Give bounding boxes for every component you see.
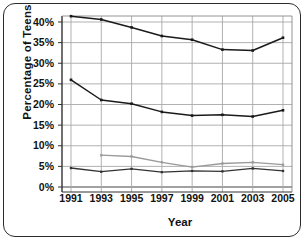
x-axis-tick-label: 1995 [115,192,149,204]
data-point-marker [70,167,72,169]
data-point-marker [221,162,223,164]
data-point-marker [130,102,133,105]
y-axis-tick-label: 5% [18,160,54,172]
x-axis-tick-label: 2005 [266,192,300,204]
series-line [71,80,283,117]
data-point-marker [252,161,254,163]
x-axis-tick-label: 1991 [54,192,88,204]
data-point-marker [100,99,103,102]
data-point-marker [100,171,102,173]
x-axis-tick-label: 1997 [145,192,179,204]
x-axis-tick-label: 2003 [236,192,270,204]
data-point-marker [251,115,254,118]
y-axis-tick-label: 35% [18,36,54,48]
y-axis-tick-label: 25% [18,77,54,89]
x-axis-title: Year [60,216,300,228]
data-point-marker [191,166,193,168]
data-point-marker [221,48,224,51]
data-point-marker [221,114,224,117]
x-axis-tick-label: 2001 [205,192,239,204]
y-axis-tick-label: 20% [18,98,54,110]
data-point-marker [282,164,284,166]
data-point-marker [282,109,285,112]
data-point-marker [161,161,163,163]
series-line [71,16,283,50]
y-axis-tick-label: 0% [18,181,54,193]
data-point-marker [100,18,103,21]
y-axis-tick-label: 30% [18,57,54,69]
data-point-marker [191,38,194,41]
data-point-marker [282,170,284,172]
data-point-marker [161,171,163,173]
x-axis-tick-label: 1999 [175,192,209,204]
series-line [71,168,283,172]
data-point-marker [161,35,164,38]
data-point-marker [70,79,73,82]
data-point-marker [100,154,102,156]
data-point-marker [130,155,132,157]
data-point-marker [130,26,133,29]
data-point-marker [252,167,254,169]
x-axis-tick-label: 1993 [84,192,118,204]
data-point-marker [221,170,223,172]
data-point-marker [282,36,285,39]
y-axis-tick-label: 40% [18,16,54,28]
data-point-marker [161,111,164,114]
y-axis-tick-label: 10% [18,139,54,151]
data-point-marker [191,114,194,117]
data-point-marker [130,168,132,170]
chart-container: Percentage of Teens Year 0%5%10%15%20%25… [0,0,306,242]
data-point-marker [70,15,73,18]
y-axis-tick-label: 15% [18,119,54,131]
data-point-marker [191,170,193,172]
data-point-marker [251,49,254,52]
